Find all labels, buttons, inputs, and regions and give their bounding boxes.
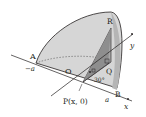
label-a-point: A [29, 52, 36, 61]
label-o: O [65, 67, 72, 76]
label-y: y [129, 41, 135, 50]
label-b: B [115, 90, 121, 99]
label-a: a [105, 96, 109, 104]
label-x: x [124, 102, 129, 111]
label-q: Q [106, 67, 112, 76]
p-pointer [79, 84, 82, 91]
label-p: P(x, 0) [63, 97, 88, 106]
label-r: R [107, 17, 113, 26]
label-neg-a: −a [25, 65, 35, 73]
y-arrow-dot [131, 33, 133, 35]
solid-figure: A −a O P(x, 0) a B x y R Q 30° [0, 0, 146, 117]
point-marker [89, 71, 91, 73]
x-arrow-dot [127, 98, 129, 100]
label-angle: 30° [94, 76, 105, 83]
